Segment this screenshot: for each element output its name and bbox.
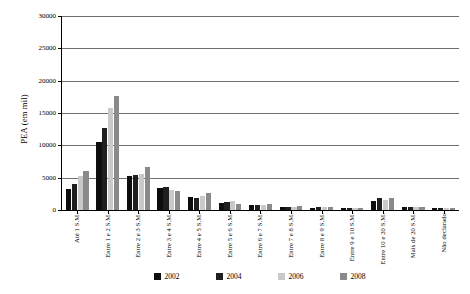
bar [114, 96, 119, 210]
bar-group [245, 16, 276, 210]
legend-swatch-icon [340, 273, 347, 280]
bar [389, 198, 394, 210]
x-axis-label-cell: Entre 8 e 9 S.M. [305, 213, 336, 269]
bar [322, 207, 327, 210]
bar [377, 198, 382, 210]
bar [352, 208, 357, 210]
y-axis-tick-label: 30000 [39, 12, 57, 20]
x-axis-label-cell: Entre 5 e 6 S.M. [214, 213, 245, 269]
x-axis-labels: Até 1 S.M.Entre 1 e 2 S.M.Entre 2 e 3 S.… [61, 213, 458, 269]
bar [102, 128, 107, 210]
bar [310, 208, 315, 210]
bar [78, 176, 83, 210]
bar-group [276, 16, 307, 210]
x-axis-label: Entre 8 e 9 S.M. [317, 213, 324, 258]
bar [413, 207, 418, 210]
x-axis-label-cell: Entre 7 e 8 S.M. [275, 213, 306, 269]
x-axis-label-cell: Entre 10 e 20 S.M. [366, 213, 397, 269]
bar [169, 190, 174, 210]
bar-chart: PEA (em mil) 050001000015000200002500030… [0, 0, 470, 294]
x-axis-label: Entre 7 e 8 S.M. [286, 213, 293, 258]
x-axis-label: Entre 3 e 4 S.M. [164, 213, 171, 258]
bar [83, 171, 88, 210]
x-axis-label: Até 1 S.M. [73, 213, 80, 243]
bar [194, 198, 199, 210]
bar [316, 207, 321, 210]
bar [66, 189, 71, 210]
bar [206, 193, 211, 210]
x-axis-label-cell: Até 1 S.M. [61, 213, 92, 269]
x-axis-label-cell: Entre 4 e 5 S.M. [183, 213, 214, 269]
bar [157, 188, 162, 210]
bar [139, 174, 144, 210]
legend-item: 2002 [154, 272, 180, 281]
bar [402, 207, 407, 210]
bar-group [306, 16, 337, 210]
bar-group [367, 16, 398, 210]
legend-item: 2008 [340, 272, 366, 281]
bar [200, 196, 205, 210]
bar [261, 205, 266, 210]
legend-item: 2006 [278, 272, 304, 281]
legend-label: 2004 [227, 272, 242, 281]
x-axis-label: Entre 1 e 2 S.M. [103, 213, 110, 258]
y-axis-tick-label: 25000 [39, 44, 57, 52]
bar [127, 176, 132, 210]
legend-swatch-icon [278, 273, 285, 280]
y-axis-tick-label: 20000 [39, 77, 57, 85]
bar-group [398, 16, 429, 210]
bar [267, 204, 272, 210]
bar [72, 184, 77, 210]
bar [255, 205, 260, 210]
bar [291, 207, 296, 210]
bar-group [62, 16, 93, 210]
bar [280, 207, 285, 210]
bar [432, 208, 437, 210]
legend-item: 2004 [216, 272, 242, 281]
x-axis-label: Entre 9 e 10 S.M. [348, 213, 355, 261]
x-axis-label-cell: Entre 6 e 7 S.M. [244, 213, 275, 269]
legend-swatch-icon [216, 273, 223, 280]
bar [297, 206, 302, 210]
y-axis-tick-label: 10000 [39, 141, 57, 149]
bar [438, 208, 443, 210]
x-axis-label: Mais de 20 S.M. [409, 213, 416, 258]
bar-group [428, 16, 459, 210]
bar [96, 142, 101, 210]
legend-label: 2002 [165, 272, 180, 281]
x-axis-label-cell: Entre 9 e 10 S.M. [336, 213, 367, 269]
bar [408, 207, 413, 210]
y-axis-tick-label: 5000 [42, 174, 56, 182]
x-axis-label-cell: Mais de 20 S.M. [397, 213, 428, 269]
bar [236, 204, 241, 210]
x-axis-label: Entre 5 e 6 S.M. [225, 213, 232, 258]
bar [450, 208, 455, 210]
bar [230, 201, 235, 210]
bar [328, 207, 333, 210]
bar-group [337, 16, 368, 210]
bar [444, 208, 449, 210]
bar [285, 207, 290, 210]
bar [133, 175, 138, 210]
bar [371, 201, 376, 210]
x-axis-label-cell: Entre 2 e 3 S.M. [122, 213, 153, 269]
y-axis-tick [58, 210, 62, 211]
x-axis-label-cell: Entre 3 e 4 S.M. [153, 213, 184, 269]
bar [224, 202, 229, 210]
x-axis-label: Entre 6 e 7 S.M. [256, 213, 263, 258]
legend-label: 2006 [289, 272, 304, 281]
y-axis-title: PEA (em mil) [19, 49, 29, 189]
bar-groups [62, 16, 459, 210]
x-axis-label-cell: Entre 1 e 2 S.M. [92, 213, 123, 269]
bar-group [93, 16, 124, 210]
bar-group [184, 16, 215, 210]
bar [163, 187, 168, 210]
bar [347, 208, 352, 210]
plot-area: 050001000015000200002500030000 [61, 16, 459, 211]
bar [249, 205, 254, 210]
x-axis-label-cell: Não declarado [427, 213, 458, 269]
bar [108, 108, 113, 210]
legend-swatch-icon [154, 273, 161, 280]
chart-legend: 2002200420062008 [61, 272, 458, 281]
legend-label: 2008 [351, 272, 366, 281]
